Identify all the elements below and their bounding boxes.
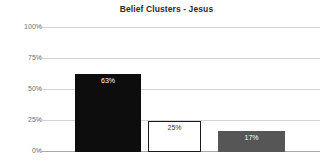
bar-value-label-1: 63% bbox=[75, 77, 141, 84]
plot-area: 63% 25% 17% bbox=[42, 27, 320, 152]
gridline-100 bbox=[42, 27, 320, 28]
bar-cluster-3: 17% bbox=[218, 131, 285, 152]
tick-mark-100 bbox=[37, 27, 41, 28]
tick-mark-75 bbox=[37, 58, 41, 59]
tick-mark-50 bbox=[37, 89, 41, 90]
bar-value-label-2: 25% bbox=[149, 124, 200, 131]
chart-title: Belief Clusters - Jesus bbox=[0, 4, 333, 14]
gridline-75 bbox=[42, 58, 320, 59]
bar-chart: Belief Clusters - Jesus 100% 75% 50% 25%… bbox=[0, 0, 333, 165]
bar-cluster-2: 25% bbox=[148, 121, 201, 152]
tick-mark-0 bbox=[37, 151, 41, 152]
tick-mark-25 bbox=[37, 120, 41, 121]
bar-value-label-3: 17% bbox=[218, 134, 285, 141]
bar-cluster-1: 63% bbox=[75, 74, 141, 152]
